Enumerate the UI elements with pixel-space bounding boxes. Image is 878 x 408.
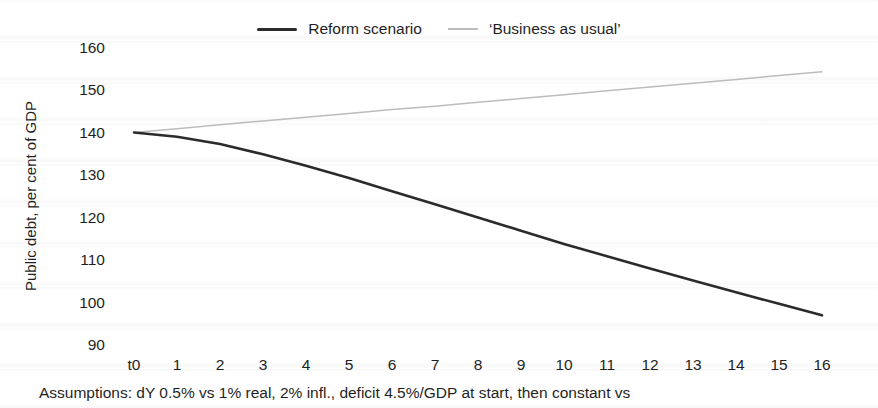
y-tick-label: 140 [43,124,105,142]
x-tick-label: 16 [800,356,844,374]
reform-scenario-line [134,133,822,316]
y-tick-label: 100 [43,294,105,312]
x-tick-label: 14 [714,356,758,374]
x-tick-label: 1 [155,356,199,374]
x-tick-label: 7 [413,356,457,374]
debt-projection-chart: Reform scenario ‘Business as usual’ Publ… [0,0,878,408]
y-tick-label: 90 [43,336,105,354]
x-tick-label: 10 [542,356,586,374]
y-tick-label: 120 [43,209,105,227]
x-tick-label: 6 [370,356,414,374]
y-tick-label: 110 [43,251,105,269]
y-tick-label: 160 [43,39,105,57]
business-as-usual-line [134,72,822,133]
x-tick-label: 11 [585,356,629,374]
x-tick-label: 9 [499,356,543,374]
x-tick-label: 12 [628,356,672,374]
x-tick-label: 8 [456,356,500,374]
x-tick-label: 4 [284,356,328,374]
assumptions-note: Assumptions: dY 0.5% vs 1% real, 2% infl… [39,384,630,402]
x-tick-label: 15 [757,356,801,374]
x-tick-label: 5 [327,356,371,374]
x-tick-label: 13 [671,356,715,374]
x-tick-label: 2 [198,356,242,374]
y-tick-label: 150 [43,81,105,99]
x-tick-label: 3 [241,356,285,374]
y-tick-label: 130 [43,166,105,184]
plot-area [0,0,878,408]
x-tick-label: t0 [112,356,156,374]
